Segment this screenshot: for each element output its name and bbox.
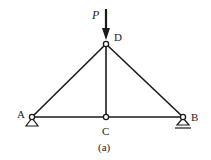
load-arrow-icon: [102, 9, 110, 40]
member-ad: [32, 44, 106, 117]
node-label-c: C: [102, 125, 109, 137]
truss-diagram: P D A B C (a): [0, 0, 211, 160]
joints: [29, 41, 185, 119]
joint-a-icon: [29, 114, 34, 119]
joint-b-icon: [180, 114, 185, 119]
node-label-b: B: [191, 111, 198, 123]
node-label-d: D: [114, 31, 122, 43]
joint-d-icon: [103, 41, 108, 46]
member-db: [106, 44, 183, 117]
figure-caption: (a): [98, 141, 111, 154]
load-label: P: [91, 8, 100, 22]
node-label-a: A: [17, 108, 25, 120]
truss-members: [32, 44, 183, 117]
joint-c-icon: [103, 114, 108, 119]
